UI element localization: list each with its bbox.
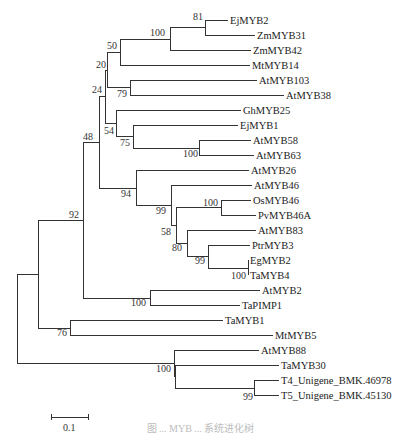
bootstrap-value: 99 <box>243 391 253 402</box>
bootstrap-value: 75 <box>120 137 130 148</box>
bootstrap-value: 100 <box>231 270 246 281</box>
leaf-label: OsMYB46 <box>253 195 299 206</box>
leaf-label: GhMYB25 <box>243 105 290 116</box>
leaf-label: PvMYB46A <box>258 210 312 221</box>
bootstrap-value: 94 <box>121 188 131 199</box>
bootstrap-value: 100 <box>183 148 198 159</box>
bootstrap-values: 81 100 50 20 79 24 54 75 100 48 94 99 10… <box>57 11 253 402</box>
leaf-label: MtMYB5 <box>275 330 316 341</box>
leaf-label: AtMYB88 <box>261 345 306 356</box>
leaf-label: AtMYB63 <box>256 150 301 161</box>
bootstrap-value: 80 <box>172 242 182 253</box>
leaf-label: PtrMYB3 <box>252 240 293 251</box>
tree-branches <box>17 20 284 395</box>
leaf-label: TaMYB1 <box>225 315 265 326</box>
bootstrap-value: 81 <box>193 11 203 22</box>
bootstrap-value: 76 <box>57 327 67 338</box>
bootstrap-value: 92 <box>69 209 79 220</box>
phylogenetic-tree: EjMYB2 ZmMYB31 ZmMYB42 MtMYB14 AtMYB103 … <box>0 0 401 440</box>
leaf-label: T4_Unigene_BMK.46978 <box>281 375 392 386</box>
leaf-label: TaMYB30 <box>281 360 326 371</box>
bootstrap-value: 99 <box>156 205 166 216</box>
leaf-label: EgMYB2 <box>250 255 291 266</box>
bootstrap-value: 20 <box>96 59 106 70</box>
bootstrap-value: 24 <box>92 84 102 95</box>
bootstrap-value: 48 <box>83 131 93 142</box>
leaf-label: AtMYB26 <box>251 165 296 176</box>
leaf-label: TaPIMP1 <box>242 300 282 311</box>
leaf-labels: EjMYB2 ZmMYB31 ZmMYB42 MtMYB14 AtMYB103 … <box>225 15 392 401</box>
leaf-label: AtMYB38 <box>286 90 331 101</box>
leaf-label: ZmMYB31 <box>257 30 306 41</box>
figure-caption: 图 ... MYB ... 系统进化树 <box>0 420 401 435</box>
leaf-label: EjMYB1 <box>240 120 279 131</box>
leaf-label: TaMYB4 <box>250 270 290 281</box>
bootstrap-value: 100 <box>156 363 171 374</box>
bootstrap-value: 100 <box>203 197 218 208</box>
bootstrap-value: 50 <box>107 40 117 51</box>
bootstrap-value: 99 <box>195 255 205 266</box>
bootstrap-value: 100 <box>150 27 165 38</box>
leaf-label: AtMYB46 <box>254 180 299 191</box>
leaf-label: EjMYB2 <box>230 15 269 26</box>
leaf-label: AtMYB2 <box>262 285 302 296</box>
leaf-label: MtMYB14 <box>252 60 299 71</box>
bootstrap-value: 58 <box>161 226 171 237</box>
leaf-label: AtMYB103 <box>259 75 309 86</box>
bootstrap-value: 100 <box>131 297 146 308</box>
leaf-label: AtMYB83 <box>258 225 303 236</box>
bootstrap-value: 79 <box>117 88 127 99</box>
leaf-label: AtMYB58 <box>253 135 298 146</box>
leaf-label: T5_Unigene_BMK.45130 <box>281 390 392 401</box>
bootstrap-value: 54 <box>104 125 114 136</box>
leaf-label: ZmMYB42 <box>253 45 302 56</box>
